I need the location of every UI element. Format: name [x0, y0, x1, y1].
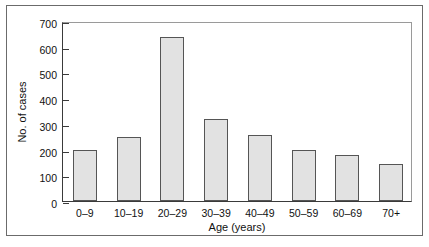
x-axis-tick-label: 70+ [382, 208, 400, 219]
y-axis-tick-label: 700 [39, 19, 57, 30]
x-axis-tick-label: 30–39 [202, 208, 231, 219]
x-axis-tick-label: 40–49 [245, 208, 274, 219]
plot-area: 0100200300400500600700 0–910–1920–2930–3… [62, 22, 412, 202]
bar [335, 155, 359, 201]
bar [292, 150, 316, 201]
x-axis-title-label: Age (years) [209, 221, 266, 233]
x-axis-tick-label: 20–29 [158, 208, 187, 219]
x-axis-tick-label: 0–9 [76, 208, 94, 219]
bar [160, 37, 184, 201]
y-axis-title-label: No. of cases [16, 81, 28, 142]
bar [73, 150, 97, 201]
x-axis-tick-label: 10–19 [114, 208, 143, 219]
y-axis-tick-label: 300 [39, 122, 57, 133]
y-axis-tick-label: 500 [39, 70, 57, 81]
y-axis-tick-label: 200 [39, 147, 57, 158]
x-axis-tick-label: 60–69 [333, 208, 362, 219]
x-axis-tick-label: 50–59 [289, 208, 318, 219]
bar [379, 164, 403, 201]
y-axis-title: No. of cases [14, 22, 30, 202]
y-axis-tick-label: 600 [39, 44, 57, 55]
figure-container: No. of cases 0100200300400500600700 0–91… [0, 0, 429, 247]
y-axis-tick-label: 100 [39, 173, 57, 184]
x-axis-title: Age (years) [62, 221, 412, 233]
y-axis-tick-label: 0 [51, 199, 57, 210]
bar [248, 135, 272, 201]
y-axis-tick-label: 400 [39, 96, 57, 107]
bar-series [63, 23, 411, 201]
bar [117, 137, 141, 201]
y-axis-tick: 0 [63, 203, 69, 204]
bar [204, 119, 228, 201]
